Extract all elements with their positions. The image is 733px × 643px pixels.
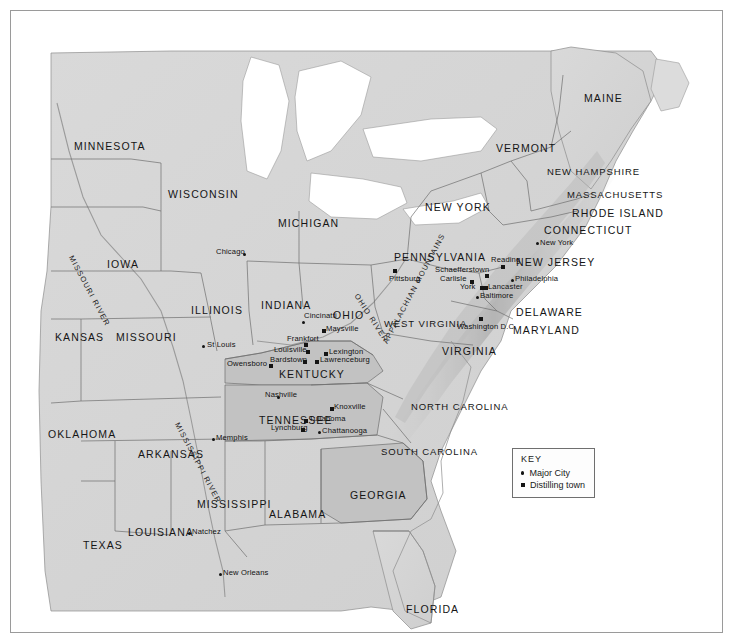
marker-owensboro[interactable] bbox=[269, 364, 273, 368]
legend-title: KEY bbox=[521, 454, 585, 464]
marker-bardstown[interactable] bbox=[303, 360, 307, 364]
marker-louisville[interactable] bbox=[306, 350, 310, 354]
marker-frankfort[interactable] bbox=[304, 343, 308, 347]
legend-label-distilling-town: Distilling town bbox=[530, 479, 585, 491]
marker-reading[interactable] bbox=[501, 265, 505, 269]
marker-lancaster[interactable] bbox=[484, 286, 488, 290]
distilling-town-marker-icon bbox=[521, 483, 525, 487]
legend-label-major-city: Major City bbox=[529, 467, 570, 479]
marker-lexington[interactable] bbox=[324, 352, 328, 356]
major-city-marker-icon bbox=[521, 471, 524, 474]
marker-carlisle[interactable] bbox=[470, 280, 474, 284]
marker-pittsburg[interactable] bbox=[393, 269, 397, 273]
map-geography bbox=[11, 11, 722, 632]
map-container: MINNESOTAWISCONSINMICHIGANIOWAILLINOISIN… bbox=[0, 0, 733, 643]
marker-maysville[interactable] bbox=[322, 329, 326, 333]
marker-washington-d-c[interactable] bbox=[479, 317, 483, 321]
marker-knoxville[interactable] bbox=[330, 407, 334, 411]
marker-schaefferstown[interactable] bbox=[485, 274, 489, 278]
marker-lawrenceburg[interactable] bbox=[315, 360, 319, 364]
legend-item-major-city: Major City bbox=[521, 467, 585, 479]
state-area-georgia bbox=[321, 443, 427, 523]
map-legend: KEY Major City Distilling town bbox=[512, 448, 595, 498]
state-area-tennessee bbox=[225, 383, 383, 441]
marker-lynchburg[interactable] bbox=[301, 428, 305, 432]
legend-item-distilling-town: Distilling town bbox=[521, 479, 585, 491]
marker-tullahoma[interactable] bbox=[304, 419, 308, 423]
map-frame: MINNESOTAWISCONSINMICHIGANIOWAILLINOISIN… bbox=[10, 10, 723, 633]
